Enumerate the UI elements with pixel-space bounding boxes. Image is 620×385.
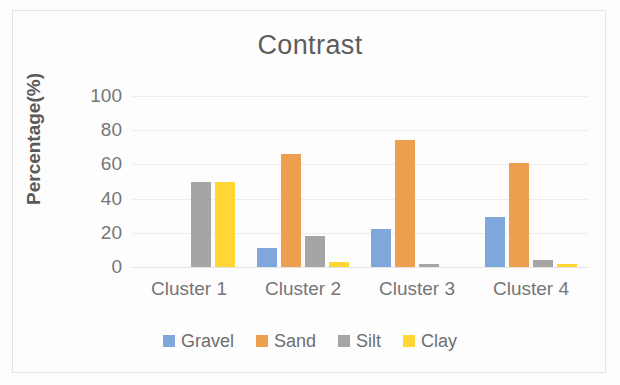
bar-gravel <box>257 248 277 267</box>
y-tick-label: 20 <box>78 223 122 242</box>
bar-chart: Contrast Percentage(%) 020406080100 Clus… <box>0 0 620 385</box>
y-tick-label: 60 <box>78 154 122 173</box>
gridline <box>132 267 588 268</box>
bar-sand <box>281 154 301 267</box>
bar-silt <box>305 236 325 267</box>
bar-group <box>246 96 360 267</box>
bar-group <box>360 96 474 267</box>
bar-clay <box>557 264 577 267</box>
bar-silt <box>533 260 553 267</box>
y-tick-label: 0 <box>78 257 122 276</box>
bar-clay <box>215 182 235 268</box>
bar-sand <box>509 163 529 267</box>
bar-gravel <box>371 229 391 267</box>
bar-sand <box>395 140 415 267</box>
y-tick-label: 100 <box>78 86 122 105</box>
bar-gravel <box>485 217 505 267</box>
legend-label: Clay <box>421 332 457 350</box>
legend-item-gravel[interactable]: Gravel <box>163 332 234 350</box>
chart-legend: GravelSandSiltClay <box>0 332 620 350</box>
legend-swatch-icon <box>338 335 350 347</box>
x-tick-label: Cluster 3 <box>357 278 477 300</box>
legend-item-clay[interactable]: Clay <box>403 332 457 350</box>
legend-item-sand[interactable]: Sand <box>256 332 316 350</box>
legend-label: Sand <box>274 332 316 350</box>
y-axis-title: Percentage(%) <box>23 69 45 209</box>
bar-group <box>132 96 246 267</box>
bar-group <box>474 96 588 267</box>
y-tick-label: 40 <box>78 189 122 208</box>
plot-area <box>132 96 588 267</box>
x-tick-label: Cluster 4 <box>471 278 591 300</box>
legend-swatch-icon <box>403 335 415 347</box>
scanned-page: Contrast Percentage(%) 020406080100 Clus… <box>0 0 620 385</box>
chart-title: Contrast <box>0 30 620 61</box>
bar-clay <box>329 262 349 267</box>
y-tick-label: 80 <box>78 120 122 139</box>
legend-label: Silt <box>356 332 381 350</box>
legend-label: Gravel <box>181 332 234 350</box>
bar-silt <box>419 264 439 267</box>
bar-silt <box>191 182 211 268</box>
legend-swatch-icon <box>163 335 175 347</box>
x-tick-label: Cluster 1 <box>129 278 249 300</box>
legend-item-silt[interactable]: Silt <box>338 332 381 350</box>
legend-swatch-icon <box>256 335 268 347</box>
x-tick-label: Cluster 2 <box>243 278 363 300</box>
